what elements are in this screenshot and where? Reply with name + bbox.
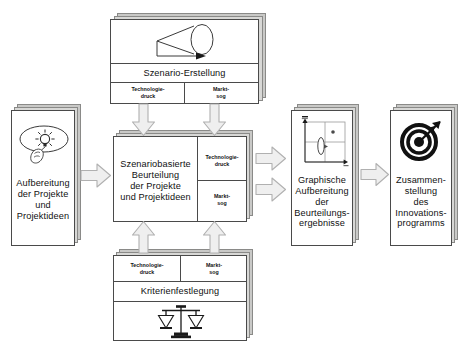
assessment-criterion-market-line2: sog — [217, 200, 227, 206]
criteria-criterion-market-line2: sog — [209, 269, 219, 275]
graphics-card[interactable]: Graphische Aufbereitung der Beurteilungs… — [291, 110, 353, 246]
criteria-divider-bottom — [114, 301, 246, 302]
scenario-criterion-technology: Technologie- druck — [113, 86, 183, 99]
arrow-criteria-to-assessment-left — [131, 220, 156, 254]
criteria-criteria-divider — [180, 256, 181, 281]
criteria-criterion-technology: Technologie- druck — [115, 262, 179, 275]
assessment-label-line4: und Projektideen — [120, 192, 191, 202]
graphics-label-line2: Aufbereitung — [295, 186, 348, 196]
program-label-line3: des — [413, 197, 428, 207]
assessment-label: Szenariobasierte Beurteilung der Projekt… — [115, 159, 196, 202]
graphics-label: Graphische Aufbereitung der Beurteilungs… — [292, 175, 352, 229]
assessment-criterion-technology-line2: druck — [215, 161, 230, 167]
assessment-criterion-market: Markt- sog — [198, 193, 246, 206]
scenario-criterion-market-line2: sog — [216, 93, 226, 99]
scenario-criterion-market-line1: Markt- — [213, 86, 229, 92]
program-label-line4: Innovations- — [395, 208, 446, 218]
program-label-line1: Zusammen- — [396, 175, 446, 185]
arrow-assessment-to-graphics-bottom — [255, 176, 287, 203]
criteria-criterion-market: Markt- sog — [182, 262, 246, 275]
criteria-divider-top — [114, 281, 246, 282]
criteria-label: Kriterienfestlegung — [114, 286, 246, 297]
assessment-label-line3: der Projekte — [130, 181, 181, 191]
scenario-criterion-market: Markt- sog — [186, 86, 256, 99]
arrow-scenario-to-assessment-right — [202, 103, 227, 137]
diagram-canvas: Szenario-Erstellung Technologie- druck M… — [0, 0, 471, 344]
program-label-line5: programms — [397, 218, 444, 228]
arrow-input-to-assessment — [80, 162, 112, 189]
criteria-criterion-market-line1: Markt- — [206, 262, 222, 268]
input-label: Aufbereitung der Projekte und Projektide… — [12, 178, 74, 221]
scenario-card[interactable]: Szenario-Erstellung Technologie- druck M… — [110, 19, 259, 104]
assessment-criteria-divider — [197, 180, 246, 181]
scenario-criterion-technology-line2: druck — [141, 93, 156, 99]
graphics-label-line1: Graphische — [298, 175, 346, 185]
scenario-divider-top — [111, 63, 258, 64]
program-card[interactable]: Zusammen- stellung des Innovations- prog… — [390, 110, 452, 246]
criteria-criterion-technology-line1: Technologie- — [130, 262, 163, 268]
assessment-label-line1: Szenariobasierte — [120, 159, 191, 169]
assessment-criterion-technology-line1: Technologie- — [205, 154, 238, 160]
arrow-criteria-to-assessment-right — [202, 220, 227, 254]
scenario-criteria-divider — [184, 82, 185, 103]
program-label-line2: stellung — [405, 186, 437, 196]
arrow-scenario-to-assessment-left — [131, 103, 156, 137]
scenario-criterion-technology-line1: Technologie- — [131, 86, 164, 92]
input-card[interactable]: Aufbereitung der Projekte und Projektide… — [11, 110, 75, 246]
input-label-line4: Projektideen — [17, 211, 69, 221]
arrow-graphics-to-program — [360, 162, 390, 187]
graphics-label-line4: Beurteilungs- — [294, 208, 349, 218]
input-label-line3: und — [35, 200, 51, 210]
scenario-label: Szenario-Erstellung — [111, 68, 258, 79]
assessment-label-line2: Beurteilung — [132, 170, 180, 180]
criteria-criterion-technology-line2: druck — [140, 269, 155, 275]
input-label-line1: Aufbereitung — [16, 178, 69, 188]
criteria-card[interactable]: Technologie- druck Markt- sog Kriterienf… — [113, 255, 247, 341]
bullseye-target-arrow-icon — [399, 116, 447, 164]
arrow-assessment-to-graphics-top — [255, 145, 287, 172]
graphics-label-line3: der — [315, 197, 329, 207]
scenario-funnel-cone-icon — [148, 23, 226, 62]
portfolio-matrix-chart-icon — [296, 115, 350, 169]
assessment-column-divider — [197, 137, 198, 221]
assessment-criterion-market-line1: Markt- — [214, 193, 230, 199]
program-label: Zusammen- stellung des Innovations- prog… — [391, 175, 451, 229]
balance-scales-icon — [157, 304, 205, 340]
assessment-card[interactable]: Szenariobasierte Beurteilung der Projekt… — [113, 136, 247, 222]
graphics-label-line5: ergebnisse — [299, 218, 345, 228]
lightbulb-thought-bubble-icon — [17, 119, 71, 169]
input-label-line2: der Projekte — [18, 189, 69, 199]
assessment-criterion-technology: Technologie- druck — [198, 154, 246, 167]
